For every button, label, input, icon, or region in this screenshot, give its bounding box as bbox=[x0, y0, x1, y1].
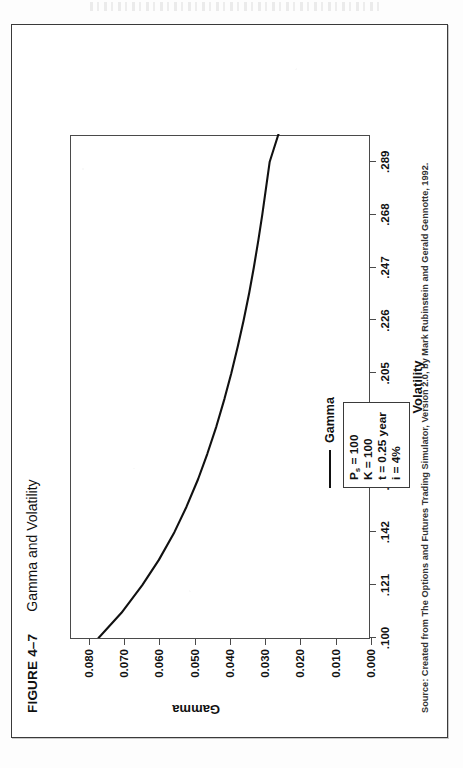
y-axis-tick-label: 0.070 bbox=[117, 649, 129, 678]
x-axis-tick-label: .289 bbox=[379, 151, 391, 173]
y-axis-tick bbox=[229, 638, 230, 645]
scanned-page: FIGURE 4–7Gamma and Volatility 0.0000.01… bbox=[0, 0, 463, 768]
x-axis-tick-label: .226 bbox=[379, 309, 391, 331]
y-axis-tick-label: 0.020 bbox=[294, 649, 306, 678]
parameter-box: Ps = 100 K = 100 t = 0.25 year i = 4% bbox=[343, 402, 410, 488]
y-axis-tick-label: 0.060 bbox=[153, 649, 165, 678]
plot-area: 0.0000.0100.0200.0300.0400.0500.0600.070… bbox=[70, 135, 370, 639]
y-axis-tick-label: 0.080 bbox=[82, 649, 94, 678]
x-axis-tick bbox=[369, 214, 376, 215]
x-axis-tick-label: .142 bbox=[379, 521, 391, 543]
x-axis-tick bbox=[369, 584, 376, 585]
x-axis-tick-label: .247 bbox=[379, 256, 391, 278]
y-axis-title: Gamma bbox=[172, 702, 220, 717]
y-axis-tick bbox=[159, 638, 160, 645]
x-axis-tick-label: .100 bbox=[379, 627, 391, 649]
y-axis-tick bbox=[194, 638, 195, 645]
legend-label-gamma: Gamma bbox=[323, 397, 337, 443]
y-axis-tick-label: 0.030 bbox=[259, 649, 271, 678]
x-axis-tick bbox=[369, 319, 376, 320]
param-rate: i = 4% bbox=[390, 412, 404, 480]
y-axis-tick bbox=[371, 638, 372, 645]
param-strike: K = 100 bbox=[362, 412, 376, 480]
x-axis-tick bbox=[369, 161, 376, 162]
y-axis-tick bbox=[300, 638, 301, 645]
gamma-curve bbox=[98, 134, 278, 638]
x-axis-tick bbox=[369, 531, 376, 532]
figure-number: FIGURE 4–7 bbox=[25, 634, 40, 713]
param-spot-price: Ps = 100 bbox=[348, 412, 362, 480]
y-axis-tick bbox=[335, 638, 336, 645]
x-axis-tick bbox=[369, 637, 376, 638]
x-axis-tick-label: .121 bbox=[379, 574, 391, 596]
source-note: Source: Created from The Options and Fut… bbox=[420, 163, 430, 713]
y-axis-tick-label: 0.010 bbox=[329, 649, 341, 678]
figure-rotated-container: FIGURE 4–7Gamma and Volatility 0.0000.01… bbox=[18, 31, 442, 731]
y-axis-tick bbox=[265, 638, 266, 645]
x-axis-tick-label: .205 bbox=[379, 362, 391, 384]
page-title: Gamma and Volatility bbox=[24, 479, 40, 611]
y-axis-tick-label: 0.000 bbox=[365, 649, 377, 678]
param-time: t = 0.25 year bbox=[376, 412, 390, 480]
legend-line-swatch bbox=[329, 450, 331, 488]
gamma-curve-svg bbox=[71, 134, 371, 638]
figure-frame: FIGURE 4–7Gamma and Volatility 0.0000.01… bbox=[11, 24, 448, 738]
x-axis-tick bbox=[369, 372, 376, 373]
y-axis-tick-label: 0.040 bbox=[223, 649, 235, 678]
x-axis-tick-label: .268 bbox=[379, 203, 391, 225]
legend: Gamma bbox=[323, 397, 337, 488]
figure-caption: FIGURE 4–7Gamma and Volatility bbox=[24, 479, 40, 713]
y-axis-tick bbox=[123, 638, 124, 645]
y-axis-tick bbox=[88, 638, 89, 645]
y-axis-tick-label: 0.050 bbox=[188, 649, 200, 678]
x-axis-tick bbox=[369, 267, 376, 268]
page-bleed-through-artifact bbox=[90, 2, 380, 11]
